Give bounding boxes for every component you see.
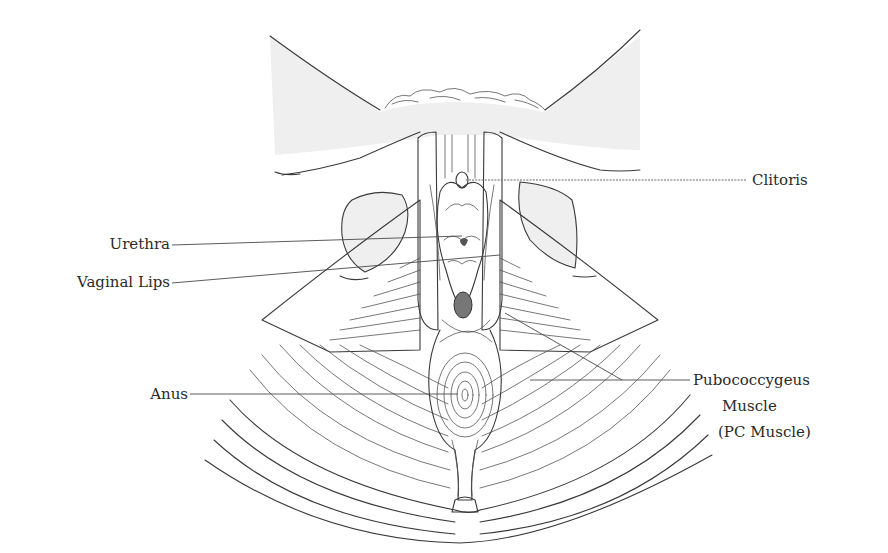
label-pc-muscle-line3: (PC Muscle) [718,422,811,442]
label-anus: Anus [100,384,188,404]
upper-muscle-fans [262,200,658,352]
label-pc-muscle-line2: Muscle [722,396,777,416]
left-lobe [342,192,408,272]
label-urethra: Urethra [70,234,170,254]
anatomy-diagram: Clitoris Urethra Vaginal Lips Anus Puboc… [0,0,888,553]
pc-muscle-leader-2 [505,313,622,380]
label-pc-muscle-line1: Pubococcygeus [693,370,810,390]
label-clitoris: Clitoris [752,170,808,190]
label-vaginal-lips: Vaginal Lips [40,272,170,292]
leader-lines [172,180,746,394]
upper-body-outline [270,30,640,175]
vaginal-lips-leader [172,255,500,283]
right-lobe [519,182,577,268]
vulva-structure [418,132,502,330]
